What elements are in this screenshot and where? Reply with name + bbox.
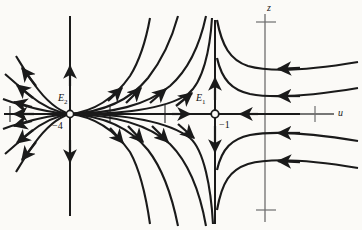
equilibrium-marker-E2[interactable] bbox=[66, 110, 73, 117]
asymptotic-lower-right-2-arrow bbox=[278, 161, 300, 162]
fan-upper-right-4 bbox=[70, 18, 212, 114]
fan-upper-right-2 bbox=[70, 16, 178, 114]
asymptotic-lower-right-2 bbox=[217, 160, 358, 210]
fan-upper-right-group bbox=[70, 16, 212, 114]
z-axis-label: z bbox=[267, 2, 271, 13]
fan-upper-right-1-arrow bbox=[108, 88, 122, 101]
fan-upper-left-1-arrow bbox=[22, 68, 36, 86]
fan-lower-right-2 bbox=[70, 114, 178, 226]
asymptotic-upper-right-1-arrow bbox=[278, 68, 300, 69]
fan-lower-right-3-arrow bbox=[152, 126, 168, 142]
fan-lower-right-4 bbox=[70, 114, 213, 224]
fan-lower-right-group bbox=[70, 114, 213, 226]
phase-portrait-canvas bbox=[0, 0, 362, 230]
u-axis-label: u bbox=[338, 107, 343, 118]
equilibrium-value-label-E2: −4 bbox=[52, 120, 63, 131]
phase-portrait-figure: z u E2 E1 −4 −1 bbox=[0, 0, 362, 230]
fan-upper-left-2-arrow bbox=[17, 85, 33, 98]
fan-lower-left-2-arrow bbox=[17, 130, 33, 143]
asymptotic-upper-right-1 bbox=[217, 20, 358, 70]
fan-left-group bbox=[3, 56, 70, 172]
fan-lower-right-1-arrow bbox=[110, 128, 123, 143]
fan-lower-left-3-arrow bbox=[22, 142, 36, 160]
equilibrium-label-E2: E2 bbox=[58, 92, 68, 106]
equilibrium-label-E1-subscript: 1 bbox=[202, 98, 206, 106]
equilibrium-marker-E1[interactable] bbox=[211, 110, 219, 118]
equilibrium-label-E1: E1 bbox=[196, 92, 206, 106]
fan-lower-right-1 bbox=[70, 114, 150, 224]
asymptotic-upper-right-2 bbox=[217, 58, 358, 96]
asymptotic-right-group bbox=[217, 20, 358, 210]
equilibrium-label-E2-subscript: 2 bbox=[64, 98, 68, 106]
equilibrium-value-label-E1: −1 bbox=[219, 119, 230, 130]
fan-upper-right-3-arrow bbox=[150, 89, 166, 103]
